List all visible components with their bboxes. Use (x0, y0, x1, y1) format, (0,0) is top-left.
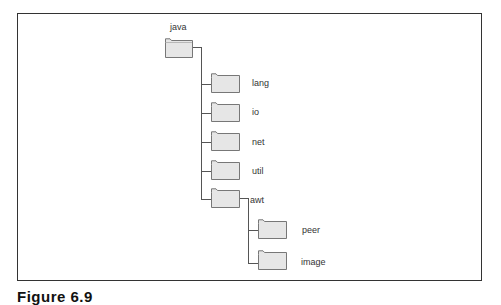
connector-line (193, 47, 201, 48)
folder-icon (258, 250, 287, 270)
diagram-frame (17, 13, 482, 281)
folder-label-java: java (170, 22, 187, 32)
trunk-line (201, 47, 202, 199)
folder-icon (211, 73, 240, 93)
folder-label-io: io (252, 107, 259, 117)
folder-icon (211, 131, 240, 151)
folder-label-net: net (252, 137, 265, 147)
folder-label-image: image (301, 257, 326, 267)
figure-caption: Figure 6.9 (17, 288, 93, 305)
folder-icon (211, 102, 240, 122)
trunk-line (248, 198, 249, 264)
folder-icon (258, 219, 287, 239)
folder-icon (165, 38, 193, 58)
folder-label-peer: peer (302, 225, 320, 235)
folder-label-util: util (252, 166, 264, 176)
folder-icon (211, 188, 240, 208)
folder-label-awt: awt (250, 195, 264, 205)
folder-icon (211, 160, 240, 180)
folder-label-lang: lang (252, 78, 269, 88)
